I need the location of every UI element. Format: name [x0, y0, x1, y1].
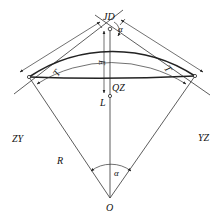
label-e: E — [97, 59, 107, 66]
label-alpha-center: α — [114, 168, 119, 178]
radius-lines — [29, 76, 195, 198]
label-alpha-top: α — [118, 24, 123, 34]
label-r: R — [56, 155, 63, 166]
label-qz: QZ — [112, 82, 125, 93]
curve-elements-diagram: JD α E QZ L T T ZY YZ R α O — [0, 0, 219, 224]
label-t-left: T — [50, 66, 63, 78]
jd-point — [108, 27, 112, 31]
label-jd: JD — [103, 11, 115, 22]
yz-point — [193, 74, 196, 77]
label-zy: ZY — [12, 133, 25, 144]
circular-curve — [29, 76, 195, 78]
zy-point — [27, 75, 30, 78]
label-o: O — [106, 202, 113, 213]
label-l: L — [99, 97, 106, 108]
qz-point — [108, 94, 111, 97]
central-angle-arc — [91, 164, 131, 171]
label-yz: YZ — [198, 132, 210, 143]
